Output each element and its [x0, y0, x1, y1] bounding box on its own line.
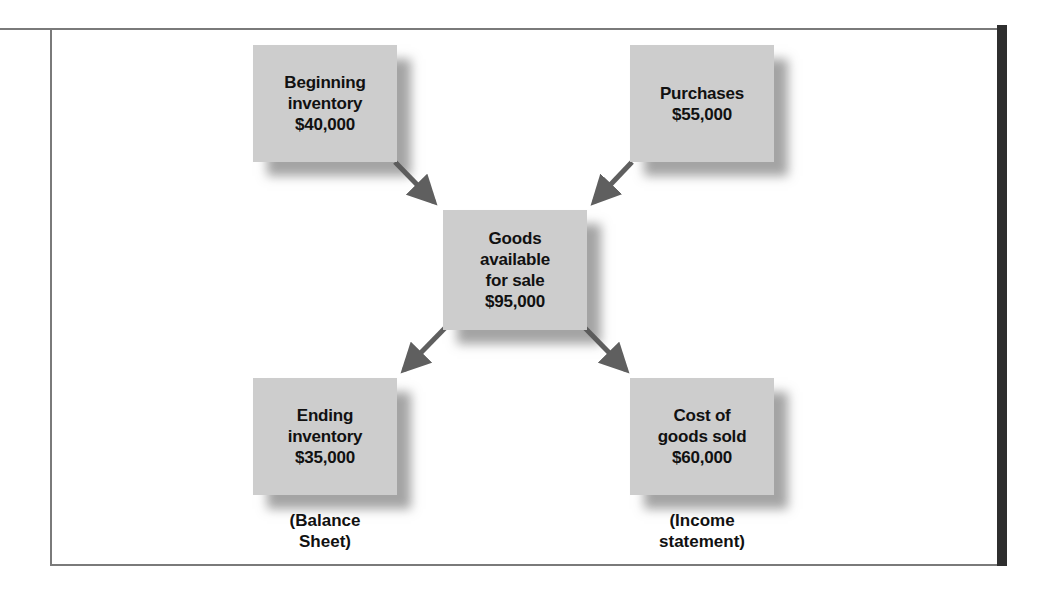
arrow-purch-to-goods: [594, 162, 632, 202]
node-value: $40,000: [295, 114, 355, 135]
caption-line: (Income: [622, 510, 782, 531]
arrow-goods-to-end: [404, 328, 445, 370]
node-line: Cost of: [673, 405, 730, 426]
caption-line: (Balance: [245, 510, 405, 531]
node-purchases: Purchases $55,000: [630, 45, 774, 162]
node-line: available: [480, 249, 550, 270]
node-cost-of-goods-sold: Cost of goods sold $60,000: [630, 378, 774, 495]
frame-bottom-border: [50, 564, 1000, 566]
frame-right-bar: [997, 25, 1007, 566]
caption-income-statement: (Income statement): [622, 510, 782, 552]
top-rule: [0, 28, 1000, 30]
node-line: goods sold: [658, 426, 747, 447]
caption-balance-sheet: (Balance Sheet): [245, 510, 405, 552]
node-goods-available-for-sale: Goods available for sale $95,000: [443, 210, 587, 330]
node-ending-inventory: Ending inventory $35,000: [253, 378, 397, 495]
node-line: Beginning: [284, 72, 365, 93]
node-value: $35,000: [295, 447, 355, 468]
node-line: Ending: [297, 405, 353, 426]
node-line: Goods: [489, 228, 542, 249]
node-line: inventory: [288, 93, 363, 114]
node-value: $60,000: [672, 447, 732, 468]
node-line: inventory: [288, 426, 363, 447]
node-line: Purchases: [660, 83, 744, 104]
frame-left-border: [50, 29, 52, 566]
caption-line: Sheet): [245, 531, 405, 552]
arrow-begin-to-goods: [395, 162, 434, 202]
node-line: for sale: [486, 270, 545, 291]
arrow-goods-to-cogs: [585, 328, 626, 370]
node-value: $55,000: [672, 104, 732, 125]
node-beginning-inventory: Beginning inventory $40,000: [253, 45, 397, 162]
node-value: $95,000: [485, 291, 545, 312]
caption-line: statement): [622, 531, 782, 552]
